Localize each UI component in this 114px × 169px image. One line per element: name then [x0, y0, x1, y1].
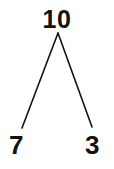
- left-child-node-value: 7: [9, 132, 23, 158]
- left-branch-line: [22, 33, 58, 128]
- right-child-node-value: 3: [85, 132, 99, 158]
- right-branch-line: [58, 33, 92, 127]
- number-bond-diagram: 10 7 3: [0, 0, 114, 169]
- root-node-value: 10: [0, 7, 114, 32]
